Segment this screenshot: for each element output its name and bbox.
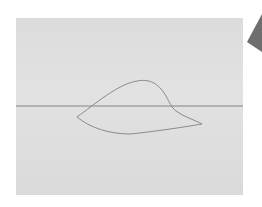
corner-triangle-icon — [247, 14, 262, 52]
diagram-canvas — [0, 0, 262, 207]
iceberg-shape — [77, 80, 202, 134]
